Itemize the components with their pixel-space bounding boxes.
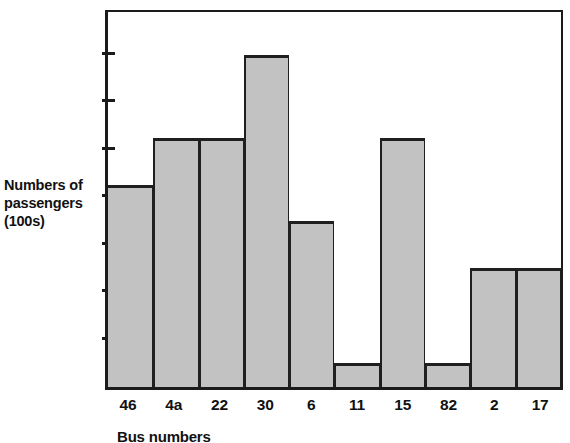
x-axis-tick-label: 17 [517,396,563,414]
x-axis-label: Bus numbers [117,428,211,443]
x-axis-tick-label: 82 [426,396,472,414]
x-axis-tick-label: 2 [471,396,517,414]
bar-cell [380,12,425,387]
x-axis-tick-label: 46 [105,396,151,414]
bar [108,185,153,387]
bar [244,55,289,388]
bar-cell [425,12,470,387]
bar-cell [334,12,379,387]
x-axis-tick-labels: 464a22306111582217 [105,396,563,414]
bar-cell [289,12,334,387]
bar-cell [470,12,515,387]
x-axis-tick-label: 11 [334,396,380,414]
bar-chart-figure: Numbers of passengers (100s) 464a2230611… [0,0,570,443]
bar [153,138,198,387]
bar [199,138,244,387]
y-axis-label-line-1: Numbers of [4,176,102,194]
x-axis-tick-label: 4a [151,396,197,414]
bar [470,268,515,387]
x-axis-tick-label: 22 [197,396,243,414]
bar-cell [516,12,561,387]
bar [516,268,561,387]
plot-area [105,10,563,390]
bar-cell [108,12,153,387]
bar [380,138,425,387]
x-axis-tick-label: 15 [380,396,426,414]
y-axis-label-line-3: (100s) [4,212,102,230]
bar-cell [153,12,198,387]
bar-cell [199,12,244,387]
x-axis-tick-label: 6 [288,396,334,414]
x-axis-tick-label: 30 [242,396,288,414]
y-axis-label-line-2: passengers [4,194,102,212]
bar-series [108,12,561,387]
bar [289,221,334,387]
bar [334,363,379,387]
bar [425,363,470,387]
bar-cell [244,12,289,387]
y-axis-label: Numbers of passengers (100s) [4,176,102,230]
